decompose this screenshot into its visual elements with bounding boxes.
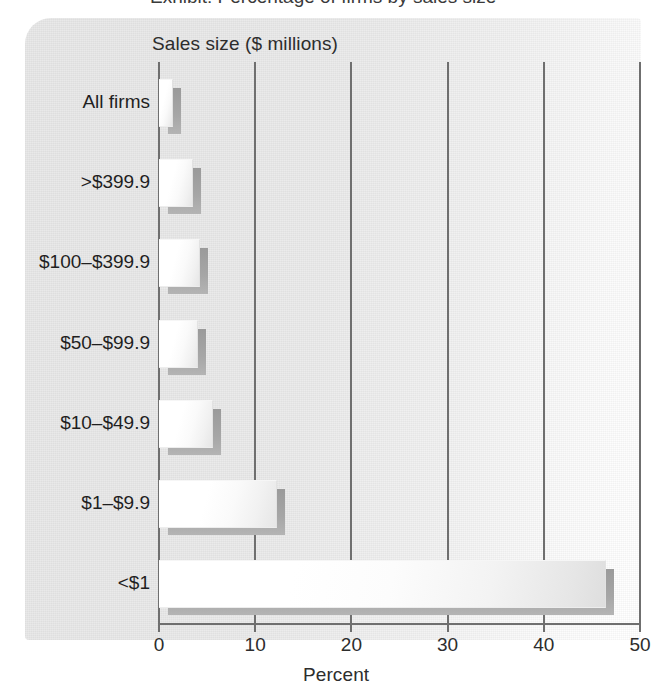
category-label-5: $1–$9.9 xyxy=(0,492,150,514)
bar-3 xyxy=(159,320,207,376)
category-label-4: $10–$49.9 xyxy=(0,412,150,434)
tick-mark-40 xyxy=(543,625,545,632)
bar-chart: Sales size ($ millions) Percent 01020304… xyxy=(0,0,653,696)
category-label-1: >$399.9 xyxy=(0,171,150,193)
gridline-20 xyxy=(350,62,352,624)
x-axis-title: Percent xyxy=(303,664,369,686)
x-tick-label: 20 xyxy=(341,634,362,656)
gridline-30 xyxy=(447,62,449,624)
y-axis-title: Sales size ($ millions) xyxy=(152,33,338,55)
bar-5 xyxy=(159,480,286,536)
tick-mark-10 xyxy=(254,625,256,632)
x-tick-label: 10 xyxy=(245,634,266,656)
gridline-40 xyxy=(543,62,545,624)
bar-0 xyxy=(159,79,182,135)
bar-2 xyxy=(159,239,209,295)
x-tick-label: 50 xyxy=(629,634,650,656)
bar-6 xyxy=(159,560,615,616)
gridline-50 xyxy=(639,62,641,624)
x-axis-line xyxy=(158,623,641,625)
category-label-0: All firms xyxy=(0,91,150,113)
bar-fill-4 xyxy=(159,400,213,448)
x-tick-label: 30 xyxy=(437,634,458,656)
tick-mark-30 xyxy=(447,625,449,632)
tick-mark-0 xyxy=(158,625,160,632)
tick-mark-20 xyxy=(350,625,352,632)
bar-fill-3 xyxy=(159,320,198,368)
y-axis-category-labels: All firms>$399.9$100–$399.9$50–$99.9$10–… xyxy=(0,0,150,696)
bar-1 xyxy=(159,159,202,215)
category-label-2: $100–$399.9 xyxy=(0,251,150,273)
gridline-10 xyxy=(254,62,256,624)
bar-fill-1 xyxy=(159,159,193,207)
bar-fill-0 xyxy=(159,79,173,127)
bar-fill-6 xyxy=(159,560,606,608)
category-label-6: <$1 xyxy=(0,572,150,594)
x-tick-label: 0 xyxy=(154,634,165,656)
category-label-3: $50–$99.9 xyxy=(0,332,150,354)
bar-4 xyxy=(159,400,222,456)
tick-mark-50 xyxy=(639,625,641,632)
x-tick-label: 40 xyxy=(533,634,554,656)
bar-fill-2 xyxy=(159,239,200,287)
bar-fill-5 xyxy=(159,480,277,528)
